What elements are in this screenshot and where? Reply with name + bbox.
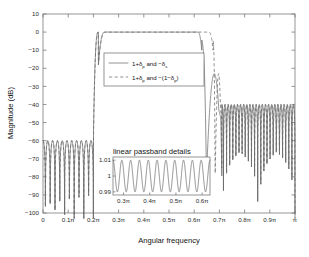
y-axis-title: Magnitude (dB) <box>6 87 15 139</box>
x-tick-label: 0.3π <box>112 216 125 223</box>
inset-axes-frame <box>113 157 210 195</box>
x-tick-label: 0.8π <box>238 216 251 223</box>
y-tick-label: −50 <box>29 119 40 126</box>
x-tick-label: 0.1π <box>62 216 75 223</box>
inset-title: linear passband details <box>113 147 191 156</box>
y-tick-label: −80 <box>29 173 40 180</box>
inset-y-tick-label: 1.01 <box>99 156 112 163</box>
magnitude-response-chart: 100−10−20−30−40−50−60−70−80−90−100 00.1π… <box>0 0 309 257</box>
x-tick-label: 0.6π <box>188 216 201 223</box>
inset-x-tick-label: 0.4π <box>143 197 156 204</box>
y-tick-label: −30 <box>29 83 40 90</box>
legend: 1+δp and −δs 1+δp and −(1−δp) <box>104 53 204 86</box>
y-tick-label: 10 <box>32 10 39 17</box>
inset-x-tick-label: 0.6π <box>196 197 209 204</box>
x-axis-title: Angular frequency <box>138 236 200 245</box>
y-tick-label: −40 <box>29 101 40 108</box>
x-tick-label: 0.4π <box>137 216 150 223</box>
figure-container: 100−10−20−30−40−50−60−70−80−90−100 00.1π… <box>0 0 309 257</box>
y-tick-label: −20 <box>29 64 40 71</box>
inset-x-tick-label: 0.5π <box>169 197 182 204</box>
inset-y-tick-label: 1 <box>108 172 112 179</box>
legend-box <box>104 53 204 86</box>
x-tick-label: 0.9π <box>263 216 276 223</box>
y-tick-label: −90 <box>29 191 40 198</box>
y-tick-label: −60 <box>29 137 40 144</box>
y-tick-label: −10 <box>29 46 40 53</box>
inset-x-tick-label: 0.3π <box>117 197 130 204</box>
inset-y-tick-label: 0.99 <box>99 188 112 195</box>
x-tick-label: 0.7π <box>213 216 226 223</box>
x-tick-label: 0.5π <box>163 216 176 223</box>
x-tick-label: 0 <box>41 216 45 223</box>
inset-passband-detail: linear passband details 1.0110.99 0.3π0.… <box>99 147 210 204</box>
y-tick-label: −70 <box>29 155 40 162</box>
y-tick-label: −100 <box>25 209 39 216</box>
y-tick-label: 0 <box>36 28 40 35</box>
